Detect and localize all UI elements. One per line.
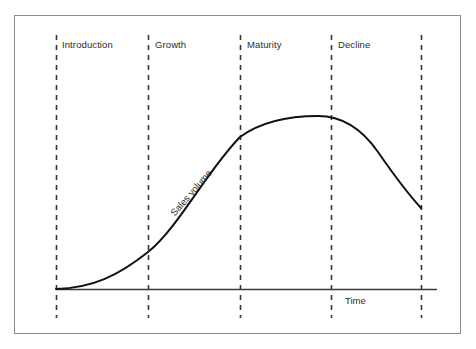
x-axis-label-time: Time <box>345 296 366 306</box>
stage-label-growth: Growth <box>155 40 186 50</box>
sales-volume-curve <box>56 116 421 289</box>
stage-label-introduction: Introduction <box>62 40 113 50</box>
stage-label-maturity: Maturity <box>247 40 282 50</box>
plot-area <box>0 0 476 349</box>
product-life-cycle-figure: Introduction Growth Maturity Decline Sal… <box>0 0 476 349</box>
stage-label-decline: Decline <box>338 40 370 50</box>
